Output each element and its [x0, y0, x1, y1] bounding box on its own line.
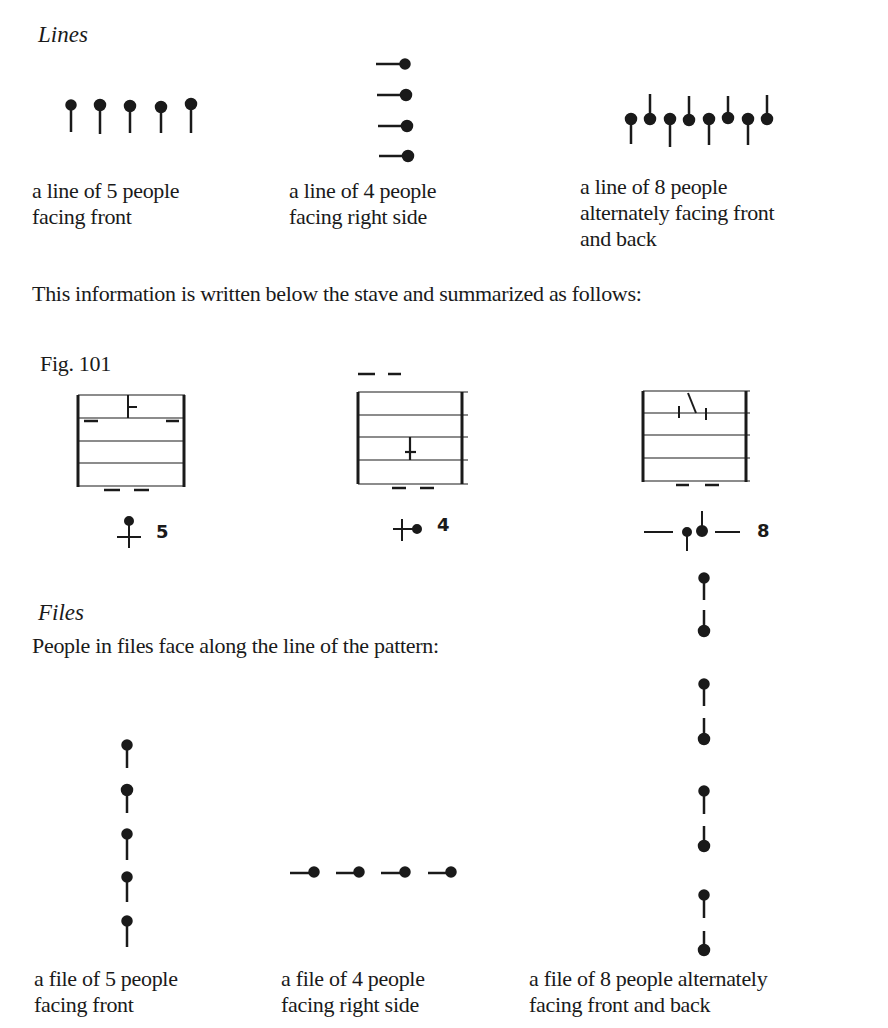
file-4-caption: a file of 4 people facing right side	[281, 966, 425, 1018]
stave-1-count: 5	[156, 521, 169, 542]
line-of-8-alternating-icon	[620, 90, 790, 150]
file-of-5-front-icon	[115, 735, 139, 955]
file-of-4-right-icon	[288, 862, 468, 884]
summary-text: This information is written below the st…	[32, 281, 642, 307]
file-5-caption: a file of 5 people facing front	[34, 966, 178, 1018]
lines-heading: Lines	[38, 22, 88, 48]
stave-2-diagram	[350, 368, 480, 498]
file-of-8-alternating-icon	[693, 568, 717, 958]
line-5-caption: a line of 5 people facing front	[32, 178, 179, 230]
stave-1-summary-icon	[115, 515, 145, 550]
stave-3-count: 8	[757, 520, 770, 541]
file-8-caption: a file of 8 people alternately facing fr…	[529, 966, 767, 1018]
files-intro-text: People in files face along the line of t…	[32, 633, 439, 659]
stave-3-summary-icon	[640, 508, 742, 552]
line-of-4-right-icon	[374, 55, 424, 165]
stave-3-diagram	[635, 385, 765, 495]
line-4-caption: a line of 4 people facing right side	[289, 178, 436, 230]
figure-label: Fig. 101	[40, 351, 111, 377]
line-of-5-front-icon	[60, 95, 210, 135]
stave-2-summary-icon	[392, 515, 424, 545]
files-heading: Files	[38, 600, 84, 626]
stave-1-diagram	[70, 390, 200, 500]
line-8-caption: a line of 8 people alternately facing fr…	[580, 174, 774, 252]
stave-2-count: 4	[437, 514, 450, 535]
